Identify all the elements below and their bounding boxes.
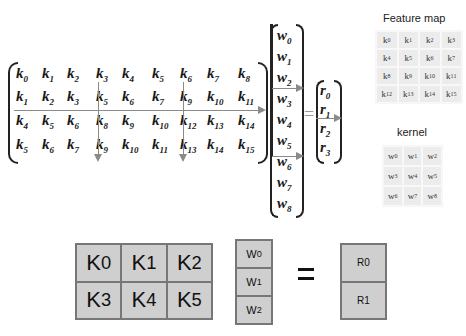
r-cell: r1 bbox=[320, 101, 330, 120]
K-cell: k9 bbox=[96, 136, 108, 155]
K-cell: k6 bbox=[122, 88, 134, 107]
row-divider-line bbox=[14, 110, 264, 111]
K-cell: k8 bbox=[96, 112, 108, 131]
feature-map-cell: k7 bbox=[441, 49, 463, 67]
K-block: K0 bbox=[76, 244, 121, 282]
equals-sign: = bbox=[304, 104, 314, 125]
feature-map-grid: k0k1k2k3k4k5k6k7k8k9k10k11k12k13k14k15 bbox=[375, 30, 463, 104]
W-block: W1 bbox=[236, 268, 272, 296]
r-cell: r2 bbox=[320, 120, 330, 139]
feature-map-cell: k2 bbox=[419, 31, 441, 49]
col-divider-line-1 bbox=[98, 82, 99, 156]
kernel-cell: w4 bbox=[403, 166, 423, 186]
K-right-paren bbox=[258, 62, 268, 164]
K-cell: k0 bbox=[16, 65, 28, 84]
feature-map-cell: k14 bbox=[419, 85, 441, 103]
W-block: W2 bbox=[236, 296, 272, 324]
R-block: R0 bbox=[341, 244, 386, 282]
K-block: K3 bbox=[76, 282, 121, 320]
feature-map-cell: k13 bbox=[398, 85, 420, 103]
kernel-title: kernel bbox=[397, 126, 427, 138]
feature-map-cell: k5 bbox=[398, 49, 420, 67]
kernel-cell: w0 bbox=[383, 146, 403, 166]
feature-map-cell: k10 bbox=[419, 67, 441, 85]
col-divider-line-2 bbox=[183, 82, 184, 156]
K-cell: k3 bbox=[96, 65, 108, 84]
K-cell: k13 bbox=[207, 112, 224, 131]
w-cell: w2 bbox=[277, 69, 292, 88]
K-block: K1 bbox=[121, 244, 166, 282]
kernel-cell: w3 bbox=[383, 166, 403, 186]
feature-map-cell: k9 bbox=[398, 67, 420, 85]
r-right-paren bbox=[334, 80, 342, 164]
K-cell: k2 bbox=[67, 65, 79, 84]
feature-map-cell: k12 bbox=[376, 85, 398, 103]
K-cell: k12 bbox=[180, 112, 197, 131]
K-cell: k14 bbox=[207, 136, 224, 155]
row-arrow-icon bbox=[258, 106, 266, 114]
feature-map-cell: k0 bbox=[376, 31, 398, 49]
K-cell: k6 bbox=[42, 136, 54, 155]
K-cell: k7 bbox=[207, 65, 219, 84]
kernel-cell: w1 bbox=[403, 146, 423, 166]
kernel-cell: w6 bbox=[383, 186, 403, 206]
r-cell: r0 bbox=[320, 82, 330, 101]
K-block: K4 bbox=[121, 282, 166, 320]
K-cell: k5 bbox=[96, 88, 108, 107]
K-cell: k14 bbox=[238, 112, 255, 131]
w-right-paren bbox=[296, 24, 304, 218]
K-cell: k10 bbox=[122, 136, 139, 155]
K-cell: k10 bbox=[207, 88, 224, 107]
w-arrow-icon bbox=[296, 152, 304, 160]
feature-map-cell: k15 bbox=[441, 85, 463, 103]
K-block-matrix: K0K1K2K3K4K5 bbox=[75, 243, 213, 320]
K-cell: k7 bbox=[67, 136, 79, 155]
r-divider bbox=[316, 118, 338, 119]
K-cell: k5 bbox=[42, 112, 54, 131]
K-cell: k5 bbox=[16, 136, 28, 155]
W-block: W0 bbox=[236, 240, 272, 268]
kernel-cell: w2 bbox=[422, 146, 442, 166]
w-cell: w0 bbox=[277, 27, 292, 46]
w-cell: w6 bbox=[277, 153, 292, 172]
K-cell: k9 bbox=[180, 88, 192, 107]
K-cell: k10 bbox=[152, 112, 169, 131]
K-cell: k8 bbox=[238, 65, 250, 84]
w-cell: w8 bbox=[277, 195, 292, 214]
kernel-grid: w0w1w2w3w4w5w6w7w8 bbox=[382, 145, 443, 207]
K-cell: k13 bbox=[180, 136, 197, 155]
feature-map-cell: k11 bbox=[441, 67, 463, 85]
K-cell: k15 bbox=[238, 136, 255, 155]
K-cell: k5 bbox=[152, 65, 164, 84]
K-cell: k9 bbox=[122, 112, 134, 131]
K-block: K2 bbox=[167, 244, 212, 282]
K-cell: k2 bbox=[42, 88, 54, 107]
w-cell: w7 bbox=[277, 174, 292, 193]
w-divider-2 bbox=[272, 156, 298, 157]
r-arrow-icon bbox=[334, 114, 342, 122]
R-block: R1 bbox=[341, 282, 386, 320]
K-cell: k6 bbox=[180, 65, 192, 84]
col-arrow-down-icon bbox=[94, 154, 102, 162]
K-cell: k11 bbox=[152, 136, 168, 155]
feature-map-cell: k1 bbox=[398, 31, 420, 49]
r-left-paren bbox=[316, 80, 324, 164]
K-cell: k3 bbox=[67, 88, 79, 107]
K-cell: k4 bbox=[122, 65, 134, 84]
w-cell: w4 bbox=[277, 111, 292, 130]
w-cell: w3 bbox=[277, 90, 292, 109]
K-cell: k1 bbox=[42, 65, 54, 84]
K-cell: k11 bbox=[238, 88, 254, 107]
R-block-vector: R0R1 bbox=[340, 243, 387, 320]
kernel-cell: w5 bbox=[422, 166, 442, 186]
feature-map-cell: k4 bbox=[376, 49, 398, 67]
W-block-vector: W0W1W2 bbox=[235, 239, 273, 325]
feature-map-cell: k6 bbox=[419, 49, 441, 67]
kernel-cell: w8 bbox=[422, 186, 442, 206]
w-thick-bar bbox=[270, 24, 273, 156]
col-arrow-down-icon bbox=[179, 154, 187, 162]
w-cell: w1 bbox=[277, 48, 292, 67]
w-divider-1 bbox=[272, 88, 298, 89]
w-left-paren bbox=[270, 24, 278, 218]
K-cell: k7 bbox=[152, 88, 164, 107]
